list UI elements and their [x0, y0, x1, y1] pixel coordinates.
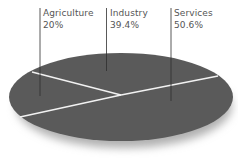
label-services-value: 50.6%	[174, 19, 213, 31]
label-agriculture: Agriculture 20%	[43, 7, 94, 31]
label-industry: Industry 39.4%	[110, 7, 148, 31]
label-services-name: Services	[174, 7, 213, 19]
label-services: Services 50.6%	[174, 7, 213, 31]
pie-body	[9, 53, 233, 141]
label-agriculture-value: 20%	[43, 19, 94, 31]
label-industry-name: Industry	[110, 7, 148, 19]
label-industry-value: 39.4%	[110, 19, 148, 31]
label-agriculture-name: Agriculture	[43, 7, 94, 19]
